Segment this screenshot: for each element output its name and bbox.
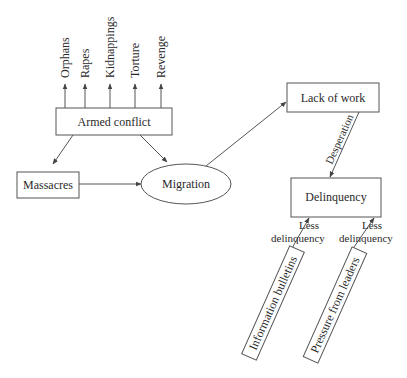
consequence-labels: Orphans Rapes Kidnappings Torture Reveng… <box>58 16 168 78</box>
consequence-arrows <box>65 84 161 108</box>
label-revenge: Revenge <box>154 36 168 78</box>
pressure-from-leaders-label: Pressure from leaders <box>307 254 362 355</box>
edge-migration-to-lack-of-work <box>206 102 286 166</box>
label-kidnappings: Kidnappings <box>103 16 117 78</box>
edge-armed-conflict-to-massacres <box>53 135 73 164</box>
node-delinquency: Delinquency <box>291 178 381 217</box>
edge-label-desperation: Desperation <box>323 112 356 166</box>
information-bulletins-label: Information bulletins <box>246 253 300 352</box>
node-armed-conflict: Armed conflict <box>56 108 172 135</box>
node-pressure-from-leaders: Pressure from leaders <box>303 247 366 363</box>
node-information-bulletins: Information bulletins <box>242 246 305 360</box>
label-rapes: Rapes <box>78 48 92 78</box>
delinquency-text-2: delinquency <box>339 232 393 244</box>
delinquency-text-1: delinquency <box>271 232 325 244</box>
edge-label-less-delinquency-1: Less delinquency <box>271 219 325 244</box>
node-lack-of-work: Lack of work <box>287 83 379 112</box>
label-orphans: Orphans <box>58 37 72 78</box>
lack-of-work-label: Lack of work <box>301 91 366 105</box>
delinquency-label: Delinquency <box>305 190 366 204</box>
armed-conflict-label: Armed conflict <box>78 115 152 129</box>
node-massacres: Massacres <box>17 172 79 198</box>
less-text-2: Less <box>362 219 382 231</box>
less-text-1: Less <box>299 219 319 231</box>
label-torture: Torture <box>128 43 142 78</box>
edge-label-less-delinquency-2: Less delinquency <box>339 219 393 244</box>
node-migration: Migration <box>141 164 231 204</box>
edge-armed-conflict-to-migration <box>140 135 167 162</box>
diagram-canvas: Orphans Rapes Kidnappings Torture Reveng… <box>0 0 407 378</box>
massacres-label: Massacres <box>23 178 73 192</box>
migration-label: Migration <box>162 177 210 191</box>
